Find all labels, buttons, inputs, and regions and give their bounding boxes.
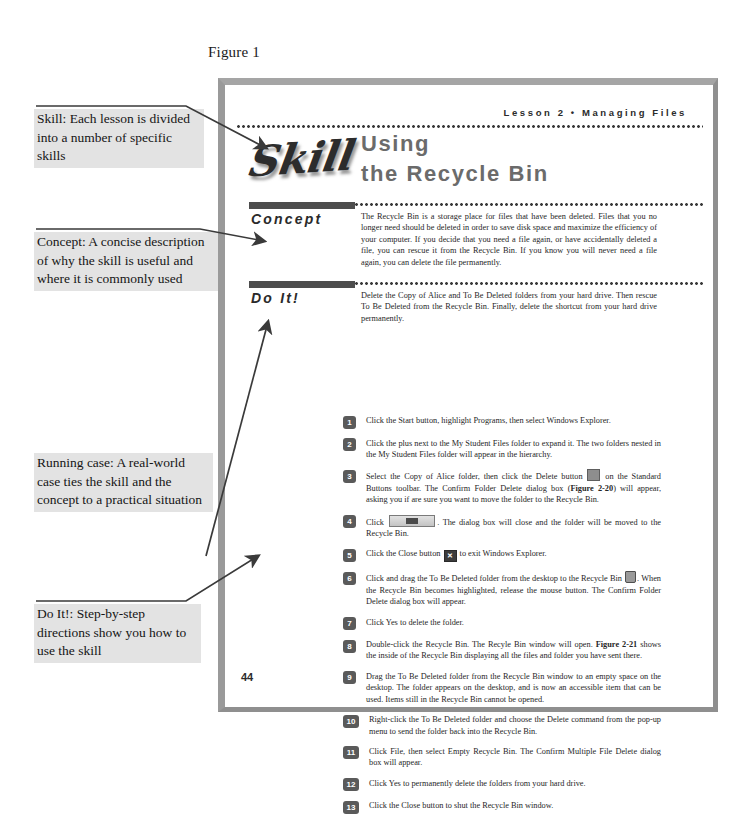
delete-button-icon [587,469,600,481]
book-page-frame: Lesson 2 • Managing Files Skill Using th… [218,78,718,712]
step-number: 9 [343,671,356,684]
step-text: Click Yes to delete the folder. [366,617,661,631]
list-item: 5 Click the Close button ✕ to exit Windo… [343,548,661,562]
step-number: 13 [343,801,359,814]
step-number: 12 [343,778,359,791]
list-item: 1 Click the Start button, highlight Prog… [343,415,661,429]
annotation-doit: Do It!: Step-by-step directions show you… [34,604,201,663]
annotation-concept: Concept: A concise description of why th… [34,232,218,291]
list-item: 3 Select the Copy of Alice folder, then … [343,469,661,505]
step-text: Right-click the To Be Deleted folder and… [369,714,661,737]
concept-section-bar [249,202,355,209]
step-text: Click and drag the To Be Deleted folder … [366,571,661,607]
step-text-part: to exit Windows Explorer. [460,549,547,558]
page-title-line-1: Using [361,129,549,159]
list-item: 13 Click the Close button to shut the Re… [343,800,661,814]
step-text-part: Select the Copy of Alice folder, then cl… [366,472,583,481]
step-text: Click the Close button ✕ to exit Windows… [366,548,661,562]
step-text-part: Click [366,518,384,527]
list-item: 11 Click File, then select Empty Recycle… [343,746,661,769]
step-number: 7 [343,617,356,630]
doit-intro-text: Delete the Copy of Alice and To Be Delet… [361,290,657,324]
step-number: 4 [343,515,356,528]
concept-text: The Recycle Bin is a storage place for f… [361,211,657,268]
step-text: Click the Start button, highlight Progra… [366,415,661,429]
step-text: Click the Close button to shut the Recyc… [369,800,661,814]
step-number: 10 [343,715,359,728]
step-text: Click File, then select Empty Recycle Bi… [369,746,661,769]
page-number: 44 [241,671,253,683]
step-text: Drag the To Be Deleted folder from the R… [366,671,661,705]
doit-section-bar [249,281,355,288]
figure-caption: Figure 1 [208,44,260,61]
list-item: 9 Drag the To Be Deleted folder from the… [343,671,661,705]
list-item: 10 Right-click the To Be Deleted folder … [343,714,661,737]
doit-intro-paragraph: Delete the Copy of Alice and To Be Delet… [361,290,657,324]
step-number: 8 [343,640,356,653]
figure-reference: Figure 2-21 [596,640,638,649]
step-text-part: Double-click the Recycle Bin. The Recyle… [366,640,593,649]
annotation-skill: Skill: Each lesson is divided into a num… [34,109,204,168]
running-head: Lesson 2 • Managing Files [225,107,701,118]
page-title-line-2: the Recycle Bin [361,159,549,189]
ok-button-icon [389,515,435,527]
list-item: 8 Double-click the Recycle Bin. The Recy… [343,639,661,662]
page-title: Using the Recycle Bin [361,129,549,188]
recycle-bin-icon [625,571,636,583]
step-number: 11 [343,746,359,759]
book-page-content: Lesson 2 • Managing Files Skill Using th… [225,85,713,707]
step-text-part: Click the Close button [366,549,440,558]
step-text: Click . The dialog box will close and th… [366,515,661,540]
step-text-part: Click and drag the To Be Deleted folder … [366,574,622,583]
step-text: Double-click the Recycle Bin. The Recyle… [366,639,661,662]
doit-section-label: Do It! [251,290,300,306]
list-item: 6 Click and drag the To Be Deleted folde… [343,571,661,607]
step-number: 2 [343,438,356,451]
concept-paragraph: The Recycle Bin is a storage place for f… [361,211,657,268]
steps-list: 1 Click the Start button, highlight Prog… [343,415,661,818]
list-item: 2 Click the plus next to the My Student … [343,438,661,461]
list-item: 4 Click . The dialog box will close and … [343,515,661,540]
step-number: 1 [343,416,356,429]
step-number: 3 [343,470,356,483]
step-text: Click the plus next to the My Student Fi… [366,438,661,461]
concept-section-label: Concept [251,211,322,227]
annotation-running-case: Running case: A real-world case ties the… [34,453,213,512]
concept-dotted-rule [355,203,703,206]
close-button-icon: ✕ [444,550,457,562]
step-text: Click Yes to permanently delete the fold… [369,778,661,792]
list-item: 7 Click Yes to delete the folder. [343,617,661,631]
figure-reference: Figure 2-20 [570,484,613,493]
step-number: 5 [343,549,356,562]
doit-dotted-rule [355,282,703,285]
step-text: Select the Copy of Alice folder, then cl… [366,469,661,505]
header-dotted-rule [237,125,703,128]
list-item: 12 Click Yes to permanently delete the f… [343,778,661,792]
step-number: 6 [343,572,356,585]
